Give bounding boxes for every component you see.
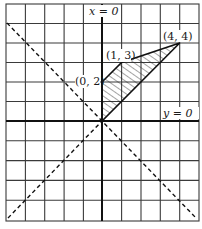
coordinate-diagram: x = 0 y = 0 (0, 2) (1, 3) (4, 4) bbox=[0, 0, 202, 229]
y-axis-equation-label: y = 0 bbox=[162, 107, 192, 120]
point-label-0-2: (0, 2) bbox=[75, 75, 105, 88]
point-label-1-3: (1, 3) bbox=[106, 49, 136, 62]
point-label-4-4: (4, 4) bbox=[163, 30, 193, 43]
dashed-line-y-eq-x bbox=[8, 121, 102, 218]
x-axis-equation-label: x = 0 bbox=[89, 5, 118, 18]
